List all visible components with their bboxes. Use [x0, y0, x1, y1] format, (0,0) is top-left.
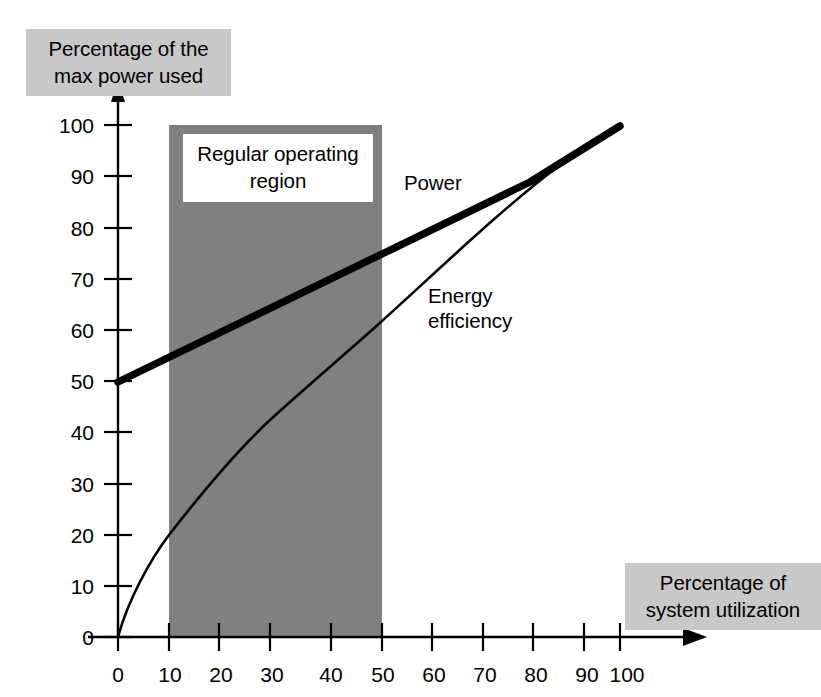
- y-tick-label: 50: [71, 370, 94, 393]
- energy-efficiency-curve-label: Energy efficiency: [428, 283, 512, 333]
- y-tick-label: 90: [71, 165, 94, 188]
- y-tick-label: 60: [71, 319, 94, 342]
- y-tick-label: 20: [71, 524, 94, 547]
- x-tick-label: 50: [371, 663, 394, 686]
- y-tick-label: 80: [71, 217, 94, 240]
- x-tick-label: 40: [319, 663, 342, 686]
- power-curve-label: Power: [404, 170, 462, 195]
- y-axis-title: Percentage of the max power used: [26, 29, 231, 96]
- x-tick-label: 60: [422, 663, 445, 686]
- chart-figure: 0 10 20 30 40 50 60 70 80 90 100 0 10 20…: [0, 0, 821, 697]
- y-tick-label: 10: [71, 575, 94, 598]
- regular-operating-region-label: Regular operating region: [183, 134, 373, 202]
- x-tick-label: 70: [473, 663, 496, 686]
- x-axis-title: Percentage of system utilization: [625, 563, 821, 630]
- y-tick-label: 40: [71, 421, 94, 444]
- x-tick-label: 10: [158, 663, 181, 686]
- x-tick-label: 80: [524, 663, 547, 686]
- x-tick-label: 100: [609, 663, 644, 686]
- x-tick-labels: 0 10 20 30 40 50 60 70 80 90 100: [112, 663, 644, 686]
- y-axis: [111, 80, 125, 637]
- y-tick-label: 0: [82, 626, 94, 649]
- y-tick-label: 100: [59, 114, 94, 137]
- y-tick-labels: 0 10 20 30 40 50 60 70 80 90 100: [59, 114, 94, 649]
- y-tick-label: 70: [71, 268, 94, 291]
- x-tick-label: 0: [112, 663, 124, 686]
- x-tick-label: 30: [260, 663, 283, 686]
- x-tick-label: 90: [575, 663, 598, 686]
- y-tick-label: 30: [71, 473, 94, 496]
- x-tick-label: 20: [209, 663, 232, 686]
